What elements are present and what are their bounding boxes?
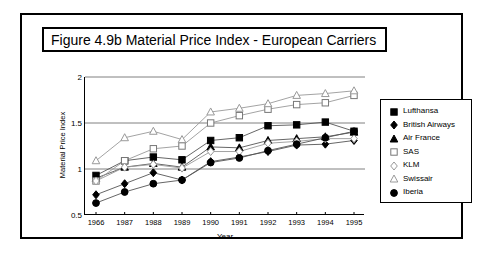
legend-marker-glyph	[391, 189, 398, 196]
data-point	[121, 189, 128, 196]
x-axis-tick-label: 1988	[145, 218, 162, 227]
filled-square-icon	[387, 105, 401, 117]
data-point	[179, 177, 186, 184]
x-axis-tick-label: 1990	[202, 218, 219, 227]
y-axis-tick-label: 1	[78, 165, 82, 174]
y-axis-tick-label: 1.5	[71, 119, 82, 128]
data-point	[322, 134, 329, 141]
data-point	[236, 112, 242, 118]
series-line-swissair	[96, 91, 354, 161]
data-point	[93, 200, 100, 207]
data-point	[293, 101, 299, 107]
legend-item: British Airways	[387, 118, 471, 132]
data-point	[236, 155, 243, 162]
page-title: Figure 4.9b Material Price Index - Europ…	[51, 32, 376, 48]
data-point	[150, 160, 157, 168]
x-axis-tick-label: 1993	[288, 218, 305, 227]
data-point	[322, 100, 328, 106]
series-line-iberia	[96, 131, 354, 203]
legend-item: Swissair	[387, 172, 471, 186]
data-point	[121, 180, 128, 188]
y-axis-label: Material Price Index	[58, 0, 67, 85]
x-axis-tick-label: 1992	[260, 218, 277, 227]
data-point	[322, 119, 328, 125]
legend-marker-glyph	[391, 109, 397, 115]
data-point	[150, 146, 156, 152]
open-diamond-icon	[387, 159, 401, 171]
data-point	[265, 123, 271, 129]
data-point	[150, 180, 157, 187]
series-markers-swissair	[92, 87, 358, 164]
figure-title-box: Figure 4.9b Material Price Index - Europ…	[42, 27, 387, 52]
x-axis-tick-label: 1995	[346, 218, 363, 227]
open-square-icon	[387, 145, 401, 157]
x-axis-label: Year	[85, 232, 365, 241]
data-point	[265, 147, 272, 154]
data-point	[293, 122, 299, 128]
legend-item: KLM	[387, 158, 471, 172]
legend-marker-glyph	[391, 162, 398, 170]
legend-item-label: Iberia	[403, 187, 423, 196]
y-axis-tick-label: 0.5	[71, 211, 82, 220]
filled-diamond-icon	[387, 118, 401, 130]
figure-frame: Figure 4.9b Material Price Index - Europ…	[20, 13, 463, 239]
legend-marker-glyph	[390, 175, 398, 182]
legend-item-label: Swissair	[403, 174, 433, 183]
legend-marker-glyph	[391, 149, 397, 155]
series-markers-sas	[93, 92, 357, 184]
data-point	[92, 157, 100, 164]
legend-item-label: British Airways	[403, 120, 455, 129]
series-line-british-airways	[96, 140, 354, 194]
legend-item-label: Lufthansa	[403, 106, 438, 115]
x-axis-tick-label: 1966	[88, 218, 105, 227]
legend-item-label: SAS	[403, 147, 419, 156]
legend-item: Iberia	[387, 185, 471, 199]
legend-item-label: Air France	[403, 133, 440, 142]
series-line-sas	[96, 95, 354, 181]
y-axis-tick-label: 2	[78, 73, 82, 82]
data-point	[179, 143, 185, 149]
data-point	[351, 128, 358, 135]
data-point	[350, 87, 358, 94]
data-point	[207, 120, 213, 126]
filled-circle-icon	[387, 186, 401, 198]
legend-item: Air France	[387, 131, 471, 145]
chart-canvas	[85, 77, 365, 215]
data-point	[93, 191, 100, 199]
data-point	[207, 159, 214, 166]
x-axis-tick-label: 1994	[317, 218, 334, 227]
legend-marker-glyph	[391, 121, 398, 129]
legend-item: SAS	[387, 145, 471, 159]
chart-legend: LufthansaBritish AirwaysAir FranceSASKLM…	[380, 99, 472, 203]
x-axis-tick-label: 1987	[116, 218, 133, 227]
series-line-lufthansa	[96, 122, 354, 175]
filled-triangle-icon	[387, 132, 401, 144]
legend-item-label: KLM	[403, 160, 419, 169]
x-axis-tick-label: 1989	[174, 218, 191, 227]
data-point	[293, 141, 300, 148]
data-point	[150, 127, 158, 134]
data-point	[150, 169, 157, 177]
series-markers-lufthansa	[93, 119, 357, 179]
data-point	[236, 135, 242, 141]
data-point	[179, 157, 185, 163]
legend-item: Lufthansa	[387, 104, 471, 118]
legend-marker-glyph	[390, 135, 398, 142]
x-axis-tick-label: 1991	[231, 218, 248, 227]
chart-plot-area: Material Price Index Year 0.511.52196619…	[84, 77, 364, 215]
open-triangle-icon	[387, 172, 401, 184]
